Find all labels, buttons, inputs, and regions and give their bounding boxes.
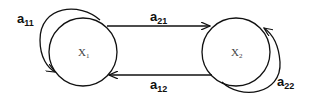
edge-a11-label: a11 xyxy=(17,11,34,28)
edge-a12-label: a12 xyxy=(150,77,167,94)
node-x1-label: X1 xyxy=(78,46,90,60)
node-x1: X1 xyxy=(49,18,117,86)
node-x2-label: X2 xyxy=(231,46,243,60)
node-x2: X2 xyxy=(202,18,270,86)
edge-a21-label: a21 xyxy=(150,9,167,26)
state-diagram: X1 a11 X2 a22 a21 a12 xyxy=(0,0,312,100)
edge-a22-label: a22 xyxy=(277,74,294,91)
